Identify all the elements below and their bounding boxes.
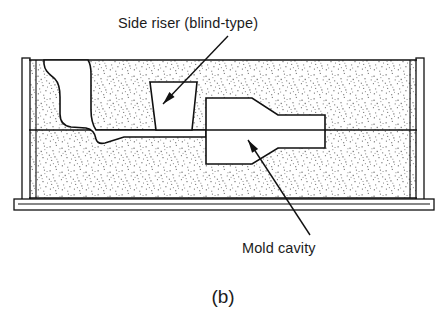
mold-cavity-label: Mold cavity [242, 240, 316, 256]
figure-caption: (b) [211, 286, 234, 307]
base-plate-group [14, 199, 434, 210]
flask-right-wall [416, 58, 424, 200]
mold-diagram-svg: Side riser (blind-type) Mold cavity (b) [0, 0, 447, 320]
side-riser-label: Side riser (blind-type) [118, 15, 258, 31]
side-riser-shape [150, 82, 197, 130]
flask-left-wall [22, 58, 30, 200]
riser-trapezoid [150, 82, 197, 130]
figure-container: Side riser (blind-type) Mold cavity (b) [0, 0, 447, 320]
